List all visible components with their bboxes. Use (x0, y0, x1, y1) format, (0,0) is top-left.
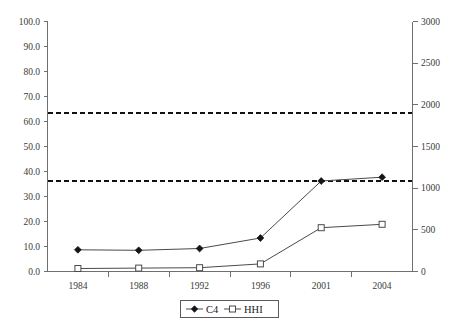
line-chart: 0.0 10.0 20.0 30.0 40.0 50.0 60.0 70.0 8… (0, 0, 455, 325)
right-tick-label-2000: 2000 (421, 100, 440, 110)
right-tick-label-1500: 1500 (421, 142, 440, 152)
right-tick-label-2500: 2500 (421, 58, 440, 68)
series-markers-c4 (75, 174, 386, 254)
legend-label-hhi: HHI (244, 304, 263, 315)
right-axis-tick-labels: 0 500 1000 1500 2000 2500 3000 (421, 17, 440, 277)
left-tick-label-80: 80.0 (23, 67, 40, 77)
left-axis-ticks (44, 22, 48, 272)
data-point-hhi-2004 (379, 221, 385, 227)
data-point-c4-2004 (379, 174, 386, 181)
x-tick-label-1984: 1984 (68, 281, 87, 291)
left-tick-label-100: 100.0 (19, 17, 41, 27)
left-tick-label-0: 0.0 (28, 267, 40, 277)
x-axis-ticks (108, 272, 351, 277)
left-tick-label-60: 60.0 (23, 117, 40, 127)
x-tick-label-1996: 1996 (251, 281, 270, 291)
x-tick-label-1992: 1992 (190, 281, 209, 291)
left-tick-label-40: 40.0 (23, 167, 40, 177)
left-tick-label-70: 70.0 (23, 92, 40, 102)
x-axis-tick-labels: 1984 1988 1992 1996 2001 2004 (68, 281, 391, 291)
left-tick-label-90: 90.0 (23, 42, 40, 52)
series-markers-hhi (75, 221, 385, 271)
x-tick-label-2004: 2004 (373, 281, 392, 291)
x-tick-label-2001: 2001 (312, 281, 331, 291)
left-tick-label-20: 20.0 (23, 217, 40, 227)
data-point-c4-1992 (196, 245, 203, 252)
chart-container: 0.0 10.0 20.0 30.0 40.0 50.0 60.0 70.0 8… (0, 0, 455, 325)
series-line-hhi (78, 224, 382, 268)
left-tick-label-30: 30.0 (23, 192, 40, 202)
left-axis-tick-labels: 0.0 10.0 20.0 30.0 40.0 50.0 60.0 70.0 8… (19, 17, 41, 277)
legend-marker-square-icon (230, 306, 236, 312)
right-tick-label-0: 0 (421, 267, 426, 277)
chart-legend: C4 HHI (181, 301, 279, 318)
data-point-hhi-1988 (136, 265, 142, 271)
left-tick-label-50: 50.0 (23, 142, 40, 152)
x-tick-label-1988: 1988 (129, 281, 148, 291)
data-point-c4-1984 (75, 246, 82, 253)
right-tick-label-3000: 3000 (421, 17, 440, 27)
data-point-hhi-2001 (318, 225, 324, 231)
data-point-hhi-1992 (197, 265, 203, 271)
right-tick-label-500: 500 (421, 225, 436, 235)
legend-label-c4: C4 (206, 304, 219, 315)
right-axis-ticks (413, 22, 418, 272)
right-tick-label-1000: 1000 (421, 183, 440, 193)
series-line-c4 (78, 177, 382, 250)
data-point-c4-1988 (135, 247, 142, 254)
left-tick-label-10: 10.0 (23, 242, 40, 252)
data-point-hhi-1996 (257, 261, 263, 267)
data-point-hhi-1984 (75, 266, 81, 272)
